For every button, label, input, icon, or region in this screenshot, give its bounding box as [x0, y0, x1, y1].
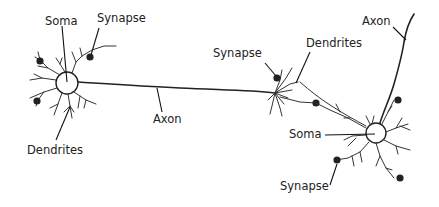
neuron-diagram: Soma Synapse Dendrites Axon Synapse Dend…: [0, 0, 439, 207]
label-synapse-left: Synapse: [97, 13, 146, 25]
neuron-drawing: [0, 0, 439, 207]
label-dendrites-right: Dendrites: [306, 38, 362, 50]
label-synapse-right-bottom: Synapse: [280, 181, 329, 193]
synapse-knob: [36, 57, 43, 64]
synapse-knob: [273, 74, 280, 81]
label-axon-right: Axon: [362, 16, 391, 28]
synapse-knob: [333, 156, 340, 163]
synapse-knob: [33, 97, 40, 104]
right-soma: [366, 123, 386, 143]
synapse-knob: [394, 96, 401, 103]
left-soma: [56, 72, 78, 94]
left-axon: [78, 82, 275, 93]
synapse-knob: [396, 174, 403, 181]
label-axon-left: Axon: [153, 114, 182, 126]
label-soma-left: Soma: [45, 16, 78, 28]
synapse-knob: [86, 53, 93, 60]
label-soma-right: Soma: [289, 129, 322, 141]
label-synapse-right-top: Synapse: [213, 48, 262, 60]
label-dendrites-left: Dendrites: [27, 145, 83, 157]
